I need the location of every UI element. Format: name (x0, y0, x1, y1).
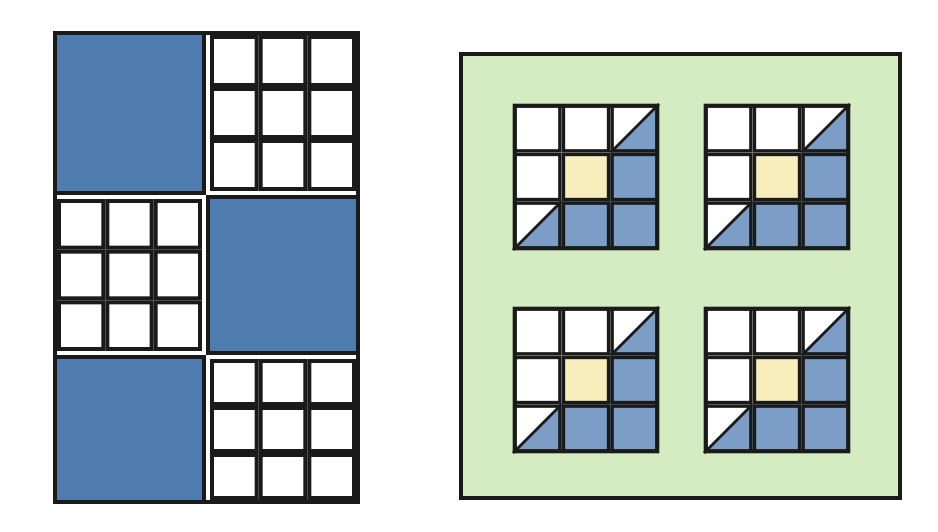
cell-fill (704, 153, 753, 202)
tile-cell (801, 201, 850, 250)
green-panel-tile-figure (459, 52, 902, 500)
tile-cell (610, 104, 659, 153)
cell-fill (801, 356, 850, 405)
block-white-grid (212, 37, 354, 189)
tile-bottom-right (704, 307, 850, 453)
grid-square (212, 408, 257, 451)
cell-fill (753, 404, 802, 453)
block-solid-blue (55, 33, 204, 193)
cell-fill (801, 153, 850, 202)
cell-fill (801, 201, 850, 250)
tile-top-right (704, 104, 850, 250)
solid-block (55, 33, 204, 193)
tile-cell (704, 307, 753, 356)
tile-cell (610, 307, 659, 356)
grid-square (59, 302, 103, 349)
tile-cell (753, 356, 802, 405)
grid-square (261, 361, 306, 404)
tile-cell (562, 153, 611, 202)
cell-fill (610, 404, 659, 453)
grid-square (309, 89, 354, 137)
block-solid-blue (55, 357, 204, 502)
grid-square (107, 302, 151, 349)
tile-cell (610, 356, 659, 405)
tile-cell (753, 404, 802, 453)
grid-square (309, 361, 354, 404)
grid-square (212, 37, 257, 85)
grid-square (107, 201, 151, 248)
cell-fill (801, 404, 850, 453)
cell-fill (562, 153, 611, 202)
checkerboard-block-figure (53, 31, 360, 504)
grid-square (59, 252, 103, 299)
grid-square (156, 302, 200, 349)
tile-cell (801, 153, 850, 202)
tile-cell (562, 201, 611, 250)
grid-square (261, 408, 306, 451)
solid-block (208, 197, 358, 353)
grid-square (261, 455, 306, 498)
grid-square (156, 201, 200, 248)
tile-cell (562, 404, 611, 453)
tile-cell (753, 307, 802, 356)
cell-fill (562, 104, 611, 153)
cell-fill (753, 356, 802, 405)
grid-square (261, 141, 306, 189)
grid-square (261, 89, 306, 137)
tile-cell (704, 356, 753, 405)
tile-cell (753, 153, 802, 202)
cell-fill (753, 153, 802, 202)
tile-cell (704, 104, 753, 153)
grid-square (309, 37, 354, 85)
block-white-grid (212, 361, 354, 498)
tile-cell (753, 201, 802, 250)
grid-square (212, 89, 257, 137)
tile-bottom-left (513, 307, 659, 453)
tile-cell (801, 307, 850, 356)
grid-square (309, 408, 354, 451)
tile-cell (513, 153, 562, 202)
tile-cell (513, 201, 562, 250)
cell-fill (513, 307, 562, 356)
block-solid-blue (208, 197, 358, 353)
tile-cell (562, 307, 611, 356)
tile-cell (610, 404, 659, 453)
tile-cell (513, 356, 562, 405)
cell-fill (562, 307, 611, 356)
tile-cell (704, 153, 753, 202)
figure-canvas (0, 0, 938, 532)
cell-fill (610, 153, 659, 202)
grid-square (156, 252, 200, 299)
tile-cell (801, 356, 850, 405)
grid-square (309, 141, 354, 189)
tile-cell (801, 404, 850, 453)
grid-square (59, 201, 103, 248)
cell-fill (704, 307, 753, 356)
cell-fill (704, 356, 753, 405)
grid-square (212, 455, 257, 498)
cell-fill (753, 307, 802, 356)
cell-fill (753, 104, 802, 153)
tile-cell (562, 356, 611, 405)
cell-fill (753, 201, 802, 250)
tile-cell (562, 104, 611, 153)
cell-fill (562, 356, 611, 405)
grid-square (107, 252, 151, 299)
cell-fill (513, 104, 562, 153)
tile-cell (610, 153, 659, 202)
grid-square (212, 141, 257, 189)
cell-fill (513, 356, 562, 405)
tile-cell (513, 104, 562, 153)
tile-cell (704, 201, 753, 250)
cell-fill (562, 404, 611, 453)
solid-block (55, 357, 204, 502)
tile-cell (610, 201, 659, 250)
tile-cell (513, 404, 562, 453)
tile-cell (801, 104, 850, 153)
cell-fill (610, 201, 659, 250)
grid-square (261, 37, 306, 85)
tile-top-left (513, 104, 659, 250)
grid-square (309, 455, 354, 498)
cell-fill (610, 356, 659, 405)
tile-cell (704, 404, 753, 453)
